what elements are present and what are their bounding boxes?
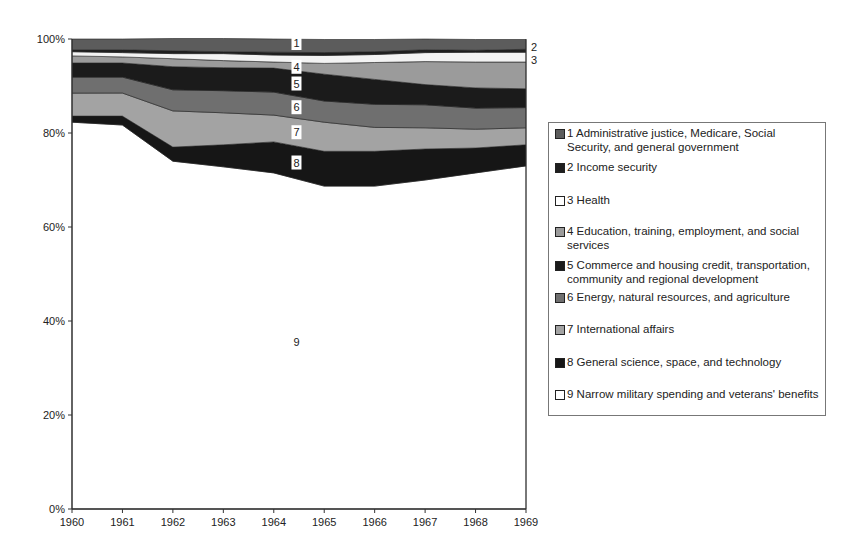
legend-swatch-1	[555, 129, 565, 139]
x-tick-label: 1962	[161, 516, 185, 528]
y-tick-label: 60%	[43, 221, 65, 233]
legend-item-3: 3 Health	[555, 193, 821, 207]
layer-label-8: 8	[293, 157, 299, 169]
x-axis-ticks: 1960196119621963196419651966196719681969	[60, 509, 538, 528]
y-tick-label: 0%	[49, 503, 65, 515]
legend-item-2: 2 Income security	[555, 160, 821, 174]
x-tick-label: 1969	[514, 516, 538, 528]
legend-label-4: 4 Education, training, employment, and s…	[567, 224, 821, 252]
y-tick-label: 40%	[43, 315, 65, 327]
layer-label-1: 1	[293, 37, 299, 49]
legend-label-9: 9 Narrow military spending and veterans'…	[567, 387, 821, 401]
x-tick-label: 1964	[262, 516, 286, 528]
legend-item-7: 7 International affairs	[555, 322, 821, 336]
legend-swatch-4	[555, 227, 565, 237]
area-layer-9	[72, 122, 526, 509]
legend-swatch-7	[555, 325, 565, 335]
layer-label-2: 2	[531, 41, 537, 53]
legend-item-5: 5 Commerce and housing credit, transport…	[555, 258, 821, 286]
y-tick-label: 80%	[43, 127, 65, 139]
y-tick-label: 100%	[37, 33, 65, 45]
legend-swatch-9	[555, 390, 565, 400]
x-tick-label: 1963	[211, 516, 235, 528]
x-tick-label: 1965	[312, 516, 336, 528]
layer-label-4: 4	[293, 61, 299, 73]
layer-label-5: 5	[293, 78, 299, 90]
x-tick-label: 1966	[362, 516, 386, 528]
y-axis-ticks: 0%20%40%60%80%100%	[37, 33, 72, 515]
legend-label-3: 3 Health	[567, 193, 821, 207]
x-tick-label: 1960	[60, 516, 84, 528]
x-tick-label: 1967	[413, 516, 437, 528]
legend-item-6: 6 Energy, natural resources, and agricul…	[555, 290, 821, 304]
legend-swatch-2	[555, 163, 565, 173]
x-tick-label: 1961	[110, 516, 134, 528]
chart-legend: 1 Administrative justice, Medicare, Soci…	[548, 122, 826, 416]
layer-label-7: 7	[293, 126, 299, 138]
legend-item-8: 8 General science, space, and technology	[555, 355, 821, 369]
y-tick-label: 20%	[43, 409, 65, 421]
legend-swatch-5	[555, 261, 565, 271]
legend-item-1: 1 Administrative justice, Medicare, Soci…	[555, 126, 821, 154]
legend-swatch-6	[555, 293, 565, 303]
legend-label-5: 5 Commerce and housing credit, transport…	[567, 258, 821, 286]
legend-label-2: 2 Income security	[567, 160, 821, 174]
legend-swatch-3	[555, 196, 565, 206]
layer-label-6: 6	[293, 101, 299, 113]
legend-swatch-8	[555, 358, 565, 368]
legend-label-1: 1 Administrative justice, Medicare, Soci…	[567, 126, 821, 154]
legend-label-6: 6 Energy, natural resources, and agricul…	[567, 290, 821, 304]
legend-item-9: 9 Narrow military spending and veterans'…	[555, 387, 821, 401]
legend-label-7: 7 International affairs	[567, 322, 821, 336]
x-tick-label: 1968	[463, 516, 487, 528]
layer-label-9: 9	[293, 336, 299, 348]
legend-label-8: 8 General science, space, and technology	[567, 355, 821, 369]
layer-label-3: 3	[531, 54, 537, 66]
legend-item-4: 4 Education, training, employment, and s…	[555, 224, 821, 252]
